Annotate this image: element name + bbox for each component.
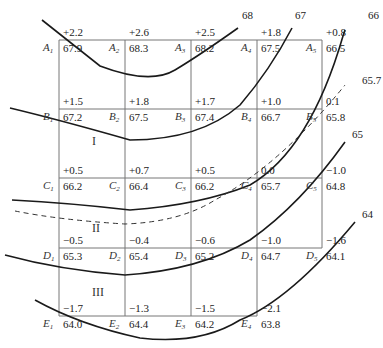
node-label: C1 [43,179,54,193]
node-elevation: 65.8 [326,111,346,123]
node-cut-fill: +1.8 [129,95,149,107]
node-label: D3 [174,249,187,263]
node-elevation: 67.5 [261,42,281,54]
contour-label: 64 [362,208,374,220]
node-label: C5 [306,179,317,193]
node-label: D5 [305,249,318,263]
node-label: A2 [108,41,120,55]
node-label: D2 [108,249,121,263]
node-label: A3 [174,41,186,55]
zone-layer: IIIIII [92,134,104,299]
node-elevation: 67.4 [195,111,215,123]
node-elevation: 65.7 [261,180,281,192]
node-cut-fill: +0.7 [129,164,149,176]
node-elevation: 65.4 [129,250,149,262]
node-elevation: 64.7 [261,250,281,262]
node-elevation: 65.2 [195,250,214,262]
node-cut-fill: +2.2 [63,26,83,38]
contour-label: 66 [368,9,380,21]
node-cut-fill: +1.5 [63,95,83,107]
contour-label: 65 [352,128,364,140]
node-elevation: 64.2 [195,318,214,330]
node-elevation: 64.8 [326,180,346,192]
node-elevation: 66.5 [326,42,346,54]
node-elevation: 67.9 [63,42,83,54]
node-cut-fill: −1.0 [261,234,281,246]
node-label: C3 [175,179,186,193]
node-elevation: 65.3 [63,250,83,262]
node-label: E2 [108,317,120,331]
node-elevation: 67.2 [63,111,82,123]
node-cut-fill: +1.8 [261,26,281,38]
node-label: E4 [240,317,252,331]
contour-label: 68 [242,9,254,21]
node-cut-fill: 0.0 [261,164,275,176]
node-elevation: 66.7 [261,111,281,123]
node-cut-fill: −2.1 [261,302,281,314]
node-elevation: 68.2 [195,42,214,54]
node-cut-fill: +0.5 [63,164,83,176]
node-label: A5 [305,41,317,55]
node-cut-fill: 0.1 [326,95,340,107]
node-cut-fill: +2.5 [195,26,215,38]
node-elevation: 64.1 [326,250,345,262]
node-elevation: 67.5 [129,111,149,123]
node-label: E3 [174,317,186,331]
node-label: B5 [306,110,317,124]
node-cut-fill: −1.6 [326,234,346,246]
contour-label: 67 [295,9,307,21]
node-cut-fill: +2.6 [129,26,149,38]
node-label: C4 [241,179,252,193]
node-elevation: 66.2 [63,180,82,192]
zone-label: II [92,221,100,235]
zone-label: I [92,134,96,148]
node-cut-fill: −1.3 [129,302,149,314]
node-label: A1 [42,41,53,55]
node-cut-fill: +1.0 [261,95,281,107]
node-cut-fill: +0.5 [195,164,215,176]
grading-diagram: 68676665.76564 A167.9+2.2A268.3+2.6A368.… [0,0,383,348]
node-cut-fill: −0.6 [195,234,215,246]
node-label: B4 [241,110,252,124]
node-elevation: 68.3 [129,42,149,54]
node-elevation: 64.4 [129,318,149,330]
node-label: A4 [240,41,252,55]
node-elevation: 63.8 [261,318,281,330]
node-label: B1 [43,110,53,124]
node-cut-fill: −0.5 [63,234,83,246]
node-elevation: 66.4 [129,180,149,192]
node-cut-fill: +1.7 [195,95,215,107]
node-label: D4 [240,249,253,263]
node-label: D1 [42,249,54,263]
node-label: B3 [175,110,186,124]
grid [59,40,322,316]
node-label: C2 [109,179,120,193]
node-cut-fill: −1.0 [326,164,346,176]
node-elevation: 64.0 [63,318,83,330]
zone-label: III [92,285,104,299]
node-cut-fill: −0.4 [129,234,149,246]
node-cut-fill: −1.7 [63,302,83,314]
node-label: B2 [109,110,120,124]
node-elevation: 66.2 [195,180,214,192]
node-label: E1 [42,317,53,331]
node-cut-fill: −1.5 [195,302,215,314]
node-cut-fill: +0.8 [326,26,346,38]
contour-label: 65.7 [362,74,382,86]
